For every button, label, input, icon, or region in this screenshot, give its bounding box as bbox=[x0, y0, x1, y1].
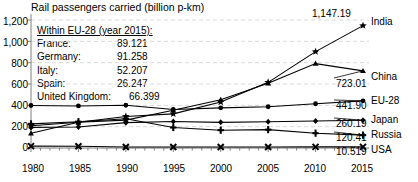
series-india bbox=[27, 22, 367, 129]
axes bbox=[31, 14, 369, 148]
series-label-eu28: EU-28 bbox=[371, 96, 399, 106]
series-label-russia: Russia bbox=[371, 130, 402, 140]
value-label-china: 723.01 bbox=[336, 79, 367, 89]
value-label-russia: 120.41 bbox=[336, 133, 367, 143]
series-label-china: China bbox=[371, 72, 397, 82]
series-label-india: India bbox=[371, 17, 393, 27]
rail-passengers-chart: Rail passengers carried (billion p-km) 1… bbox=[0, 0, 418, 182]
series-label-japan: Japan bbox=[371, 115, 398, 125]
value-label-japan: 260.19 bbox=[336, 119, 367, 129]
value-label-eu28: 441.90 bbox=[336, 101, 367, 111]
series-label-usa: USA bbox=[371, 145, 392, 155]
value-label-usa: 10.519 bbox=[336, 147, 367, 157]
value-label-india: 1,147.19 bbox=[312, 9, 351, 19]
series-layer bbox=[27, 22, 367, 150]
